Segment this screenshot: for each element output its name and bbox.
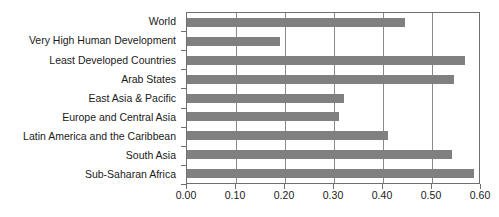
category-label: Europe and Central Asia — [0, 108, 182, 127]
value-tick-label: 0.20 — [274, 190, 294, 201]
category-axis-labels: WorldVery High Human DevelopmentLeast De… — [0, 12, 182, 184]
value-tick-label: 0.50 — [421, 190, 441, 201]
bar-row — [187, 32, 479, 51]
value-axis-labels: 0.000.100.200.300.400.500.60 — [0, 190, 499, 206]
bar-row — [187, 164, 479, 183]
value-tick-label: 0.60 — [470, 190, 490, 201]
value-tick-label: 0.00 — [176, 190, 196, 201]
bar — [187, 169, 474, 178]
bar-row — [187, 89, 479, 108]
bar — [187, 131, 388, 140]
bar-row — [187, 126, 479, 145]
category-label: Least Developed Countries — [0, 50, 182, 69]
bar-series — [187, 13, 479, 183]
bar — [187, 112, 339, 121]
category-label: South Asia — [0, 146, 182, 165]
bar-row — [187, 70, 479, 89]
horizontal-bar-chart: WorldVery High Human DevelopmentLeast De… — [0, 0, 499, 217]
category-label: Very High Human Development — [0, 31, 182, 50]
category-label: Sub-Saharan Africa — [0, 165, 182, 184]
bar-row — [187, 51, 479, 70]
category-label: World — [0, 12, 182, 31]
category-label: East Asia & Pacific — [0, 88, 182, 107]
bar — [187, 37, 280, 46]
bar — [187, 75, 454, 84]
bar — [187, 18, 405, 27]
bar-row — [187, 13, 479, 32]
bar-row — [187, 145, 479, 164]
value-tick-label: 0.40 — [372, 190, 392, 201]
bar-row — [187, 107, 479, 126]
plot-area — [186, 12, 480, 184]
value-tick-label: 0.10 — [225, 190, 245, 201]
bar — [187, 56, 465, 65]
bar — [187, 150, 452, 159]
category-label: Latin America and the Caribbean — [0, 127, 182, 146]
category-label: Arab States — [0, 69, 182, 88]
value-tick-label: 0.30 — [323, 190, 343, 201]
bar — [187, 94, 344, 103]
